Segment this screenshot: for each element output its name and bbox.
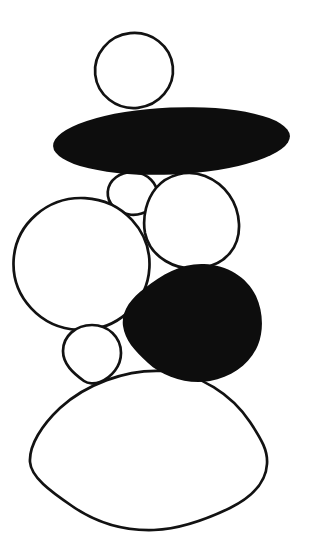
stone-cairn-illustration [0,0,322,549]
black-slab-stone [52,102,292,179]
top-round-stone [91,29,176,112]
mid-right-stone [144,173,239,269]
base-stone [30,371,267,530]
illustration-canvas [0,0,322,549]
small-left-stone [63,325,121,383]
